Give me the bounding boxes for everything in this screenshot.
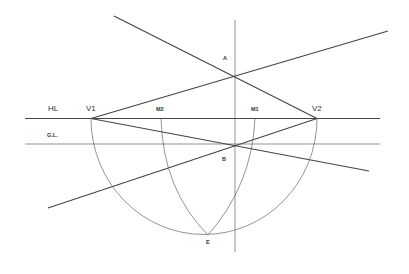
label-v2: V2 <box>312 104 322 113</box>
arc-v1-v2 <box>91 119 317 235</box>
label-m1: M1 <box>251 106 259 112</box>
line-b-v2 <box>48 119 317 209</box>
arc-m1-e <box>208 119 255 236</box>
label-m2: M2 <box>156 106 164 112</box>
line-v1-b <box>91 119 369 172</box>
label-e: E <box>206 239 210 245</box>
label-a: A <box>223 55 227 61</box>
perspective-diagram: HL V1 G.L. M2 M1 V2 A B E <box>0 0 409 274</box>
label-b: B <box>222 156 226 162</box>
label-hl: HL <box>48 104 59 113</box>
line-v1-a <box>91 31 388 119</box>
label-v1: V1 <box>86 104 96 113</box>
label-gl: G.L. <box>47 132 58 138</box>
